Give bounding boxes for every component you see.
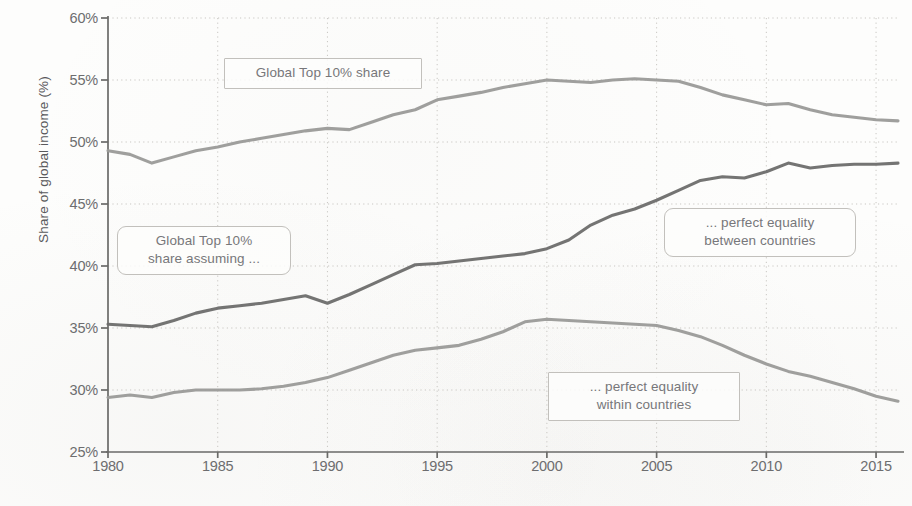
- series-line-2: [108, 319, 898, 401]
- callout-global-top-10-share: Global Top 10% share: [224, 58, 422, 89]
- callout-perfect-equality-within-countries: ... perfect equality within countries: [548, 372, 740, 421]
- callout-perfect-equality-between-countries: ... perfect equality between countries: [664, 208, 856, 257]
- callout-share-assuming: Global Top 10% share assuming ...: [117, 226, 291, 275]
- series-line-0: [108, 79, 898, 163]
- chart-container: Share of global income (%) 60%55%50%45%4…: [0, 0, 912, 506]
